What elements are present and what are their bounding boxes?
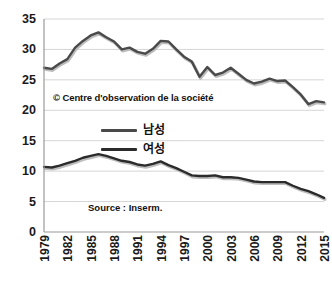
x-axis-tick-label: 2006 xyxy=(249,235,261,262)
x-axis-tick-label: 1994 xyxy=(156,235,168,262)
line-chart: 35302520151050 © Centre d'observation de… xyxy=(0,0,332,283)
x-axis-tick-label: 1982 xyxy=(62,235,74,262)
x-axis-tick-label: 2012 xyxy=(296,235,308,262)
x-axis-tick-label: 1991 xyxy=(132,235,144,262)
x-axis-tick-label: 1985 xyxy=(86,235,98,262)
x-axis-tick-label: 1988 xyxy=(109,235,121,262)
x-axis-tick-label: 2015 xyxy=(319,235,331,262)
x-axis-tick-label: 2009 xyxy=(272,235,284,262)
x-axis-tick-label: 1997 xyxy=(179,235,191,262)
x-axis-tick-label: 1979 xyxy=(39,235,51,262)
x-axis-tick-label: 2000 xyxy=(202,235,214,262)
x-axis-tick-label: 2003 xyxy=(226,235,238,262)
x-axis-labels: 1979198219851988199119941997200020032006… xyxy=(0,0,332,283)
